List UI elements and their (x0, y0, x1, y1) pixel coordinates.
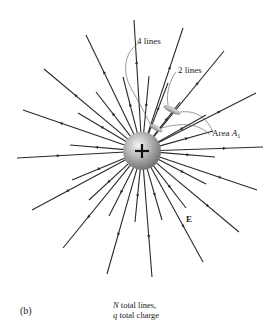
arrowhead-icon (136, 194, 139, 197)
field-line (158, 156, 257, 190)
caption-line-2: q total charge (113, 310, 159, 320)
field-line (143, 168, 152, 277)
label-2-lines: 2 lines (178, 66, 202, 75)
area-label-sub: 1 (237, 133, 240, 139)
field-line (44, 69, 129, 140)
arrowhead-icon (168, 66, 171, 69)
field-line (159, 147, 263, 150)
field-line (32, 159, 127, 210)
arrowhead-icon (145, 102, 148, 105)
caption-text-1: total lines, (119, 300, 157, 310)
caption-text-2: total charge (117, 310, 159, 320)
field-line (23, 110, 126, 145)
leader-2-lines (167, 72, 176, 105)
arrowhead-icon (186, 153, 189, 156)
field-label-e: E (186, 215, 192, 224)
panel-label: (b) (20, 305, 32, 316)
label-area-a1: Area A1 (212, 129, 240, 139)
field-line (86, 35, 135, 136)
area-label-text: Area (212, 128, 232, 138)
figure-caption: N total lines, q total charge (113, 300, 159, 320)
arrowhead-icon (223, 147, 226, 150)
label-4-lines: 4 lines (137, 37, 161, 46)
arrowhead-icon (135, 61, 138, 64)
arrowhead-icon (55, 154, 58, 157)
field-line (107, 167, 137, 274)
electric-field-diagram (0, 0, 276, 333)
field-line (17, 152, 125, 158)
caption-line-1: N total lines, (113, 300, 159, 310)
field-line (157, 93, 256, 143)
arrowhead-icon (147, 235, 150, 238)
arrowhead-icon (95, 146, 98, 149)
field-line (63, 164, 131, 248)
leader-area-1 (180, 112, 213, 133)
arrowhead-icon (218, 176, 221, 179)
